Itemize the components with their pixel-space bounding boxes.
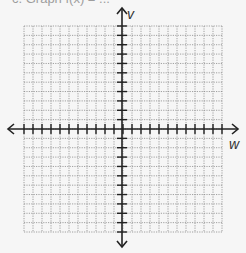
coordinate-plane[interactable]: v w (0, 0, 246, 253)
x-axis-label: w (229, 136, 240, 152)
y-axis-label: v (127, 6, 135, 22)
